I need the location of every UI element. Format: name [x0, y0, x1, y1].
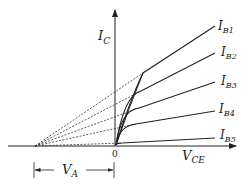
label-ib5: IB5: [219, 128, 236, 144]
x-axis-label: VCE: [182, 148, 205, 165]
y-axis-label: IC: [97, 28, 110, 46]
label-ib4: IB4: [218, 102, 235, 118]
curve-ib4: [116, 111, 215, 145]
label-ib3: IB3: [220, 74, 237, 90]
characteristic-curves: [116, 26, 215, 145]
curve-ib1: [116, 26, 215, 145]
early-voltage-extrapolation-lines: [35, 73, 143, 146]
origin-label: 0: [112, 149, 118, 159]
bjt-output-characteristics-diagram: IB1 IB2 IB3 IB4 IB5 IC VCE 0 VA: [0, 0, 252, 184]
early-voltage-label: VA: [62, 162, 78, 179]
curve-ib5: [116, 138, 215, 145]
label-ib1: IB1: [217, 19, 234, 35]
label-ib2: IB2: [220, 45, 237, 61]
